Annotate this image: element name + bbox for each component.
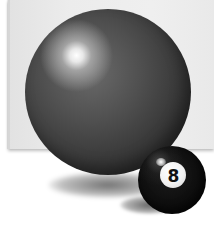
eight-ball-highlight xyxy=(156,158,166,166)
billiard-scene: 8 xyxy=(0,0,214,233)
panel-edge xyxy=(8,0,10,149)
eight-ball: 8 xyxy=(138,146,206,214)
eight-ball-number: 8 xyxy=(168,168,180,185)
eight-ball-number-spot: 8 xyxy=(160,162,186,188)
